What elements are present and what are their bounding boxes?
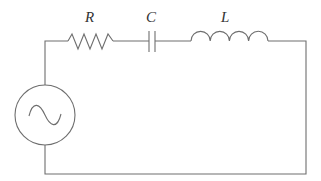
wire-inductor-right	[45, 41, 306, 174]
inductor-label: L	[220, 9, 229, 25]
resistor-label: R	[84, 9, 94, 25]
capacitor-label: C	[146, 9, 157, 25]
circuit-diagram: R C L	[0, 0, 321, 181]
resistor-symbol	[68, 34, 113, 49]
sine-wave-icon	[29, 105, 61, 124]
inductor-symbol	[191, 31, 268, 41]
wire-left-top	[45, 41, 68, 85]
